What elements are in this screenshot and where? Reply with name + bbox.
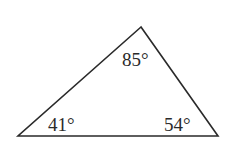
triangle-diagram: 85° 41° 54° [0,0,231,160]
angle-label-bottom-right: 54° [164,114,191,135]
angle-label-bottom-left: 41° [48,114,75,135]
angle-label-top: 85° [122,49,149,70]
